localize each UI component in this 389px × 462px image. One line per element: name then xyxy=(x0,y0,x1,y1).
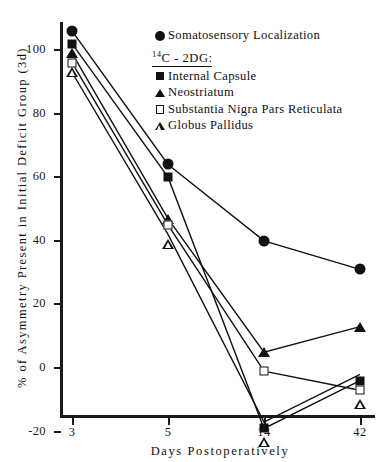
legend-item-label: Globus Pallidus xyxy=(168,118,253,133)
data-point-filled-circle xyxy=(163,159,174,170)
data-point-filled-triangle xyxy=(66,48,78,58)
legend-item-label: Internal Capsule xyxy=(168,69,256,84)
legend-item-globus-pallidus: Globus Pallidus xyxy=(152,118,384,134)
legend-item-internal-capsule: Internal Capsule xyxy=(152,69,384,85)
data-point-open-square xyxy=(164,220,173,229)
data-point-filled-circle xyxy=(355,264,366,275)
data-point-open-triangle xyxy=(162,239,174,249)
data-point-open-triangle xyxy=(258,437,270,447)
data-point-filled-square xyxy=(260,424,269,433)
data-point-filled-triangle xyxy=(258,347,270,357)
data-point-filled-circle xyxy=(259,235,270,246)
data-point-open-square xyxy=(356,386,365,395)
data-point-open-square xyxy=(260,367,269,376)
filled-square-icon xyxy=(152,72,168,80)
legend-item-substantia-nigra-pars-reticulata: Substantia Nigra Pars Reticulata xyxy=(152,102,384,118)
legend-item-neostriatum: Neostriatum xyxy=(152,85,384,101)
data-point-open-square xyxy=(68,58,77,67)
data-point-open-triangle xyxy=(66,67,78,77)
data-point-filled-square xyxy=(68,39,77,48)
data-point-filled-triangle xyxy=(354,322,366,332)
filled-triangle-icon xyxy=(152,89,168,97)
data-point-open-triangle xyxy=(354,399,366,409)
open-triangle-icon xyxy=(152,122,168,130)
legend-group-header: 14C - 2DG: xyxy=(152,49,212,67)
data-point-filled-square xyxy=(356,376,365,385)
legend-item-label: Substantia Nigra Pars Reticulata xyxy=(168,102,343,117)
figure: -20020406080100 351442 % of Asymmetry Pr… xyxy=(0,0,389,462)
data-point-filled-square xyxy=(164,173,173,182)
filled-circle-icon xyxy=(152,31,168,41)
legend-item-label: Somatosensory Localization xyxy=(168,28,320,43)
open-square-icon xyxy=(152,105,168,114)
legend: Somatosensory Localization 14C - 2DG: In… xyxy=(152,28,384,135)
legend-item-somatosensory-localization: Somatosensory Localization xyxy=(152,28,384,44)
legend-group-header-text: C - 2DG: xyxy=(162,51,213,65)
legend-item-label: Neostriatum xyxy=(168,85,234,100)
legend-group-header-superscript: 14 xyxy=(152,49,162,59)
data-point-filled-circle xyxy=(67,25,78,36)
